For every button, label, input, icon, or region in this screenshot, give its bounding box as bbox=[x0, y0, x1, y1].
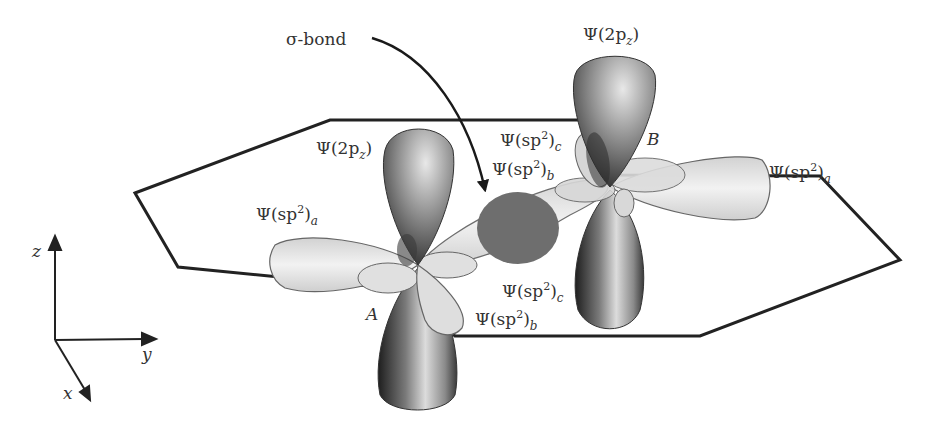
atom-a-sp2a-label: Ψ(sp2)a bbox=[256, 203, 318, 228]
y-axis-label: y bbox=[141, 344, 152, 364]
atom-a-sp2c-lobe bbox=[397, 234, 417, 266]
atom-b-label: B bbox=[646, 129, 660, 149]
atom-b-2pz-lower-lobe bbox=[575, 190, 644, 329]
atom-a-sp2b-label: Ψ(sp2)b bbox=[475, 308, 538, 333]
atom-a-small-back-lobe bbox=[358, 263, 418, 293]
atom-b-sp2b-label: Ψ(sp2)b bbox=[492, 158, 555, 183]
atom-b-sp2c-label: Ψ(sp2)c bbox=[500, 129, 562, 154]
sigma-bond-diagram: σ-bond Ψ(2pz) Ψ(2pz) Ψ(sp2)c Ψ(sp2)b B Ψ… bbox=[0, 0, 932, 433]
atom-a-2pz-label: Ψ(2pz) bbox=[316, 138, 372, 162]
atom-a-label: A bbox=[364, 304, 378, 324]
atom-b-2pz-label: Ψ(2pz) bbox=[583, 24, 639, 48]
atom-a-sp2c-label: Ψ(sp2)c bbox=[502, 280, 564, 305]
z-axis-label: z bbox=[31, 241, 42, 261]
sigma-bond-label: σ-bond bbox=[286, 29, 346, 49]
atom-b-small-lower-lobe bbox=[614, 189, 634, 217]
sigma-overlap-region bbox=[477, 192, 559, 264]
x-axis-label: x bbox=[63, 383, 73, 403]
atom-b-sp2a-label: Ψ(sp2)a bbox=[769, 161, 831, 186]
coordinate-axes bbox=[49, 236, 156, 400]
